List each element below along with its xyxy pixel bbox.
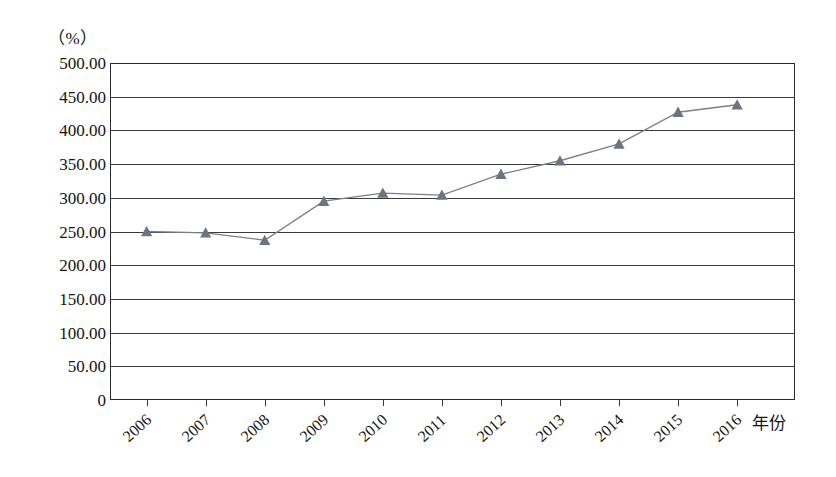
x-axis-tick-label: 2007 <box>179 412 213 445</box>
x-axis-tick-mark <box>442 400 443 406</box>
x-axis-tick-mark <box>737 400 738 406</box>
x-axis-tick-label: 2006 <box>120 412 154 445</box>
x-axis-tick-label: 2009 <box>297 412 331 445</box>
x-axis-tick-label: 2008 <box>238 412 272 445</box>
x-axis-tick-label: 2011 <box>415 412 449 445</box>
x-axis-tick-label: 2010 <box>356 412 390 445</box>
x-axis-tick-mark <box>324 400 325 406</box>
x-axis-tick-mark <box>678 400 679 406</box>
x-axis-tick-label: 2016 <box>710 412 744 445</box>
x-axis-tick-mark <box>501 400 502 406</box>
x-axis-tick-mark <box>383 400 384 406</box>
x-axis-tick-mark <box>619 400 620 406</box>
x-axis-tick-mark <box>265 400 266 406</box>
x-axis-tick-mark <box>206 400 207 406</box>
x-axis-tick-mark <box>147 400 148 406</box>
x-axis-title: 年份 <box>752 409 786 434</box>
x-axis-tick-label: 2015 <box>651 412 685 445</box>
x-axis-tick-label: 2013 <box>533 412 567 445</box>
x-axis-tick-label: 2014 <box>592 412 626 445</box>
x-axis-tick-mark <box>560 400 561 406</box>
x-axis-tick-labels: 2006200720082009201020112012201320142015… <box>0 0 836 477</box>
chart-figure: （%） 500.00450.00400.00350.00300.00250.00… <box>0 0 836 477</box>
x-axis-tick-label: 2012 <box>474 412 508 445</box>
